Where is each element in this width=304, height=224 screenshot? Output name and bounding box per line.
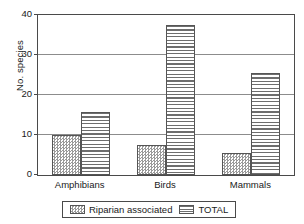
y-axis-tick-label: 20 — [10, 89, 36, 99]
y-axis-tick-label: 0 — [10, 169, 36, 179]
chart-legend: Riparian associatedTOTAL — [62, 201, 236, 218]
y-axis-tick-mark — [34, 94, 38, 95]
bar-amphibians-riparian — [52, 135, 81, 175]
bar-birds-total — [166, 25, 195, 175]
x-axis-label-birds: Birds — [154, 179, 176, 190]
bar-birds-riparian — [137, 145, 166, 175]
x-axis-label-mammals: Mammals — [230, 179, 271, 190]
x-axis-label-amphibians: Amphibians — [55, 179, 105, 190]
legend-label: Riparian associated — [89, 204, 172, 215]
y-axis-tick-mark — [34, 174, 38, 175]
chart-figure: No. species 010203040 AmphibiansBirdsMam… — [0, 0, 304, 224]
y-axis-tick-mark — [34, 134, 38, 135]
plot-area — [37, 14, 295, 176]
y-axis-tick-label: 40 — [10, 9, 36, 19]
y-axis-tick-mark — [34, 14, 38, 15]
x-axis-tick-labels: AmphibiansBirdsMammals — [37, 179, 295, 193]
legend-item: TOTAL — [179, 204, 228, 215]
y-axis-tick-labels: 010203040 — [10, 0, 36, 224]
legend-label: TOTAL — [198, 204, 228, 215]
legend-swatch-icon — [70, 205, 85, 214]
legend-swatch-icon — [179, 205, 194, 214]
y-axis-tick-mark — [34, 54, 38, 55]
y-axis-tick-label: 10 — [10, 129, 36, 139]
y-axis-tick-label: 30 — [10, 49, 36, 59]
bar-mammals-total — [251, 73, 280, 175]
bar-amphibians-total — [81, 112, 110, 175]
bar-mammals-riparian — [222, 153, 251, 175]
legend-item: Riparian associated — [70, 204, 172, 215]
